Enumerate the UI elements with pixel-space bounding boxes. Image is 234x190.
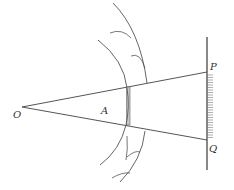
label-P: P (209, 61, 217, 72)
label-A: A (100, 105, 108, 116)
ray-upper-OP (22, 72, 207, 107)
wavefront-arc-inner (98, 40, 128, 165)
label-O: O (13, 109, 21, 120)
diffraction-diagram: O A P Q (0, 0, 234, 190)
ray-lower-OQ (22, 107, 207, 140)
screen-hatching (207, 75, 213, 138)
label-Q: Q (209, 143, 217, 154)
wavefront-arc-outer-upper (113, 3, 147, 83)
wavefront-arc-outer-lower (120, 131, 145, 182)
wavelet-arc-upper-1 (110, 31, 131, 38)
